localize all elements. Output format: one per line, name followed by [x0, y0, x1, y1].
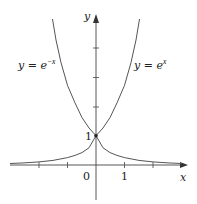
- exponential-functions-plot: y x 0 1 1 y = e−x y = ex: [0, 0, 197, 204]
- y-axis: [93, 14, 99, 200]
- y-axis-arrow-icon: [93, 14, 99, 23]
- origin-label: 0: [83, 170, 90, 183]
- label-exp-neg-x: y = e−x: [17, 57, 56, 72]
- curve-exp-neg-x: [53, 19, 183, 164]
- x-axis-arrow-icon: [180, 162, 188, 168]
- y-tick-label-1: 1: [85, 130, 92, 143]
- x-axis-label: x: [180, 171, 187, 184]
- curve-exp-x: [10, 19, 140, 164]
- y-axis-label: y: [83, 10, 91, 23]
- label-exp-x: y = ex: [133, 57, 167, 72]
- intersection-point: [94, 134, 98, 138]
- x-tick-label-1: 1: [121, 170, 128, 183]
